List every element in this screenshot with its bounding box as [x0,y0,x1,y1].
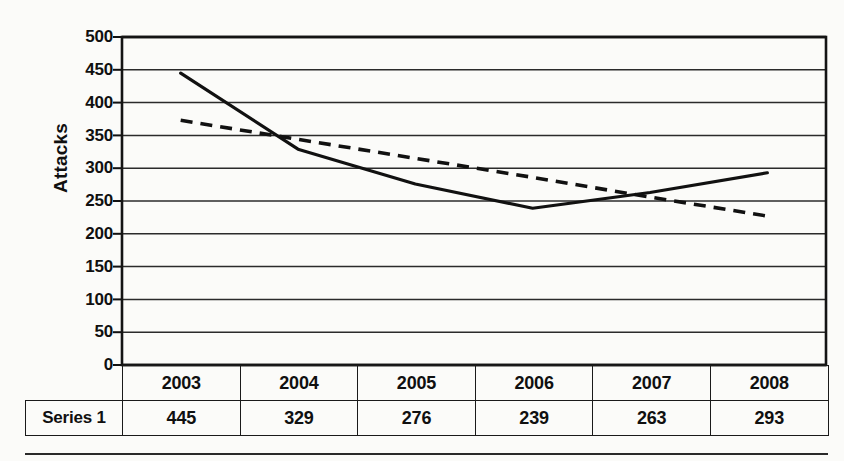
table-value-cell: 329 [240,401,358,436]
table-header-cell: 2006 [475,366,593,401]
table-header-cell: 2004 [240,366,358,401]
data-table: 2003 2004 2005 2006 2007 2008 Series 1 4… [25,365,829,436]
table-header-cell: 2005 [358,366,476,401]
table-value-cell: 239 [475,401,593,436]
table-value-cell: 263 [593,401,711,436]
series-1-line [181,73,768,208]
table-row-series-1: Series 1 445 329 276 239 263 293 [26,401,829,436]
table-corner-cell [26,366,123,401]
y-axis-ticks [113,37,122,365]
table-row-years: 2003 2004 2005 2006 2007 2008 [26,366,829,401]
table-header-cell: 2008 [710,366,828,401]
table-header-cell: 2007 [593,366,711,401]
table-value-cell: 276 [358,401,476,436]
gridlines [122,37,826,365]
chart-figure: Attacks 500 450 400 350 300 250 200 150 … [0,0,844,461]
table-row-label: Series 1 [26,401,123,436]
page-bottom-rule [25,453,828,455]
table-value-cell: 445 [123,401,241,436]
table-value-cell: 293 [710,401,828,436]
table-header-cell: 2003 [123,366,241,401]
